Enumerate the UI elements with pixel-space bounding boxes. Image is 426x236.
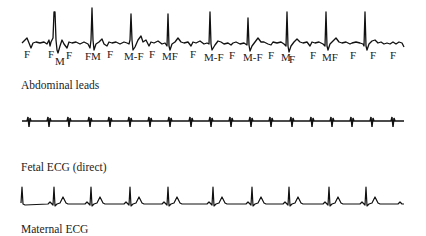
maternal-ecg-trace [0,0,426,236]
maternal-ecg-caption: Maternal ECG [21,223,88,235]
